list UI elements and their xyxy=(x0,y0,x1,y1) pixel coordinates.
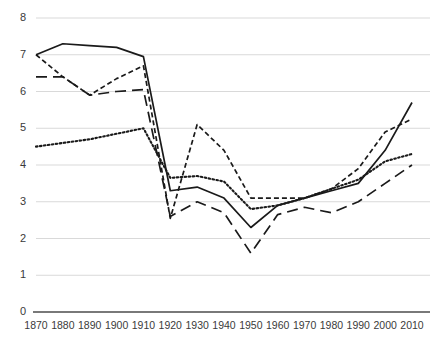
y-tick-label: 4 xyxy=(8,159,26,170)
line-chart: 012345678 187018801890190019101920193019… xyxy=(0,0,432,341)
y-tick-label: 0 xyxy=(8,306,26,317)
series-solid xyxy=(36,44,412,228)
y-tick-label: 5 xyxy=(8,122,26,133)
y-tick-label: 2 xyxy=(8,233,26,244)
y-tick-label: 1 xyxy=(8,269,26,280)
series-dotted xyxy=(36,128,412,209)
y-tick-label: 8 xyxy=(8,12,26,23)
gridlines xyxy=(36,18,430,275)
data-series-group xyxy=(36,44,412,253)
series-short-dash xyxy=(36,55,412,219)
y-tick-label: 7 xyxy=(8,49,26,60)
x-tick-label: 2010 xyxy=(396,320,428,331)
y-tick-label: 3 xyxy=(8,196,26,207)
chart-plot-area xyxy=(0,0,432,341)
y-tick-label: 6 xyxy=(8,86,26,97)
